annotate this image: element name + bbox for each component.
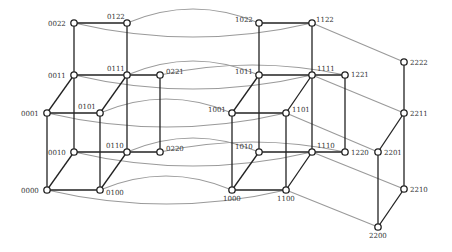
node-1010 (256, 149, 262, 155)
node-1100 (283, 187, 289, 193)
node-label-0111: 0111 (107, 65, 125, 73)
node-label-1221: 1221 (351, 71, 369, 79)
link-1110-2210 (312, 152, 404, 189)
node-1001 (229, 110, 235, 116)
node-label-0100: 0100 (106, 189, 124, 197)
edge-1010-1000 (232, 152, 259, 190)
node-2211 (401, 110, 407, 116)
node-label-0122: 0122 (107, 13, 125, 21)
node-label-1022: 1022 (235, 16, 253, 24)
node-label-0110: 0110 (106, 142, 124, 150)
node-1122 (309, 20, 315, 26)
node-1111 (309, 72, 315, 78)
node-label-0001: 0001 (21, 110, 39, 118)
link-0100-1000 (100, 176, 232, 190)
node-label-0221: 0221 (166, 68, 184, 76)
node-label-0011: 0011 (48, 72, 66, 80)
node-label-0220: 0220 (166, 145, 184, 153)
edge-2210-2200 (378, 189, 404, 227)
node-0110 (124, 149, 130, 155)
node-labels: 0022012200110111022100010101001001100220… (21, 13, 428, 240)
node-2201 (375, 149, 381, 155)
edge-1011-1001 (232, 75, 259, 113)
node-2222 (401, 59, 407, 65)
link-0022-1122 (74, 23, 312, 37)
node-label-1122: 1122 (316, 16, 334, 24)
link-0000-1100 (47, 190, 286, 204)
node-label-1110: 1110 (317, 142, 335, 150)
node-label-1111: 1111 (317, 65, 335, 73)
node-label-1100: 1100 (277, 195, 295, 203)
edge-0011-0001 (47, 75, 74, 113)
node-label-2211: 2211 (410, 110, 428, 118)
node-label-2200: 2200 (369, 232, 387, 240)
node-label-0000: 0000 (21, 187, 39, 195)
node-1022 (256, 20, 262, 26)
link-1111-2211 (312, 75, 404, 113)
node-1101 (283, 110, 289, 116)
node-label-2201: 2201 (384, 149, 402, 157)
node-label-2210: 2210 (410, 186, 428, 194)
node-label-1001: 1001 (208, 106, 226, 114)
node-0101 (97, 110, 103, 116)
node-label-1000: 1000 (223, 195, 241, 203)
node-1220 (342, 149, 348, 155)
node-label-1101: 1101 (292, 106, 310, 114)
node-label-1220: 1220 (351, 149, 369, 157)
node-label-1010: 1010 (235, 143, 253, 151)
edge-1110-1100 (286, 152, 312, 190)
node-label-2222: 2222 (410, 59, 428, 67)
node-0001 (44, 110, 50, 116)
link-0001-1101 (47, 113, 286, 127)
node-0011 (71, 72, 77, 78)
node-label-0022: 0022 (48, 20, 66, 28)
node-0220 (157, 149, 163, 155)
link-1100-2200 (286, 190, 378, 227)
node-label-1011: 1011 (235, 68, 253, 76)
node-0221 (157, 72, 163, 78)
edge-0010-0000 (47, 152, 74, 190)
node-1221 (342, 72, 348, 78)
node-0022 (71, 20, 77, 26)
lattice-diagram: 0022012200110111022100010101001001100220… (0, 0, 452, 252)
link-0011-1111 (74, 75, 312, 89)
node-1000 (229, 187, 235, 193)
node-label-0101: 0101 (78, 103, 96, 111)
node-0010 (71, 149, 77, 155)
link-1122-2222 (312, 23, 404, 62)
edge-2211-2201 (378, 113, 404, 152)
node-0000 (44, 187, 50, 193)
node-1110 (309, 149, 315, 155)
node-2200 (375, 224, 381, 230)
link-0010-1110 (74, 152, 312, 166)
node-0100 (97, 187, 103, 193)
node-2210 (401, 186, 407, 192)
node-label-0010: 0010 (48, 149, 66, 157)
node-1011 (256, 72, 262, 78)
